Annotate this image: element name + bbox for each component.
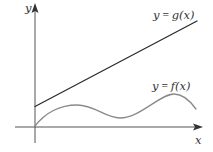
f-curve (35, 94, 196, 126)
curve-f: y = f(x) (35, 79, 196, 126)
x-axis-label: x (195, 133, 202, 147)
g-label: y = g(x) (152, 8, 195, 22)
x-axis: x (15, 124, 203, 148)
function-graph-diagram: y x y = g(x) y = f(x) (0, 0, 213, 152)
y-axis-label: y (24, 1, 32, 15)
f-label: y = f(x) (151, 79, 190, 93)
y-axis: y (24, 1, 39, 143)
